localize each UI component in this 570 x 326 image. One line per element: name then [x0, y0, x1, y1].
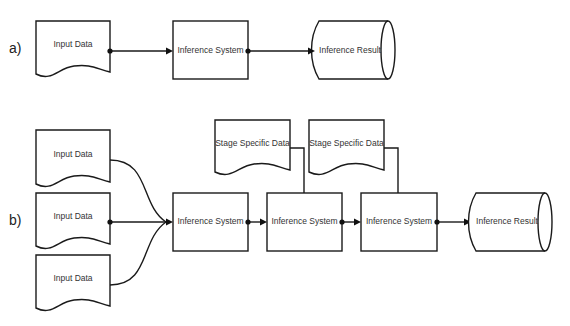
inference-system-label-a: Inference System — [173, 45, 248, 55]
arrow-head-icon — [260, 219, 267, 226]
inference-system-label-b3: Inference System — [361, 216, 437, 226]
arrow-head-icon — [354, 219, 361, 226]
arrow-head-icon — [166, 48, 173, 55]
connector-dot — [107, 48, 112, 53]
input-data-label-b2: Input Data — [36, 211, 110, 221]
arrow-head-icon — [166, 219, 173, 226]
input-data-label-b3: Input Data — [36, 273, 110, 283]
stage-data-label-1: Stage Specific Data — [215, 138, 290, 148]
panel-label-a: a) — [9, 40, 21, 56]
input-data-label-a: Input Data — [36, 39, 110, 49]
inference-result-label-b: Inference Result — [469, 216, 545, 226]
inference-result-label-a: Inference Result — [312, 45, 388, 55]
inference-system-label-b1: Inference System — [173, 216, 248, 226]
panel-label-b: b) — [9, 212, 21, 228]
inference-system-label-b2: Inference System — [267, 216, 342, 226]
stage-data-label-2: Stage Specific Data — [309, 138, 384, 148]
input-data-label-b1: Input Data — [36, 149, 110, 159]
